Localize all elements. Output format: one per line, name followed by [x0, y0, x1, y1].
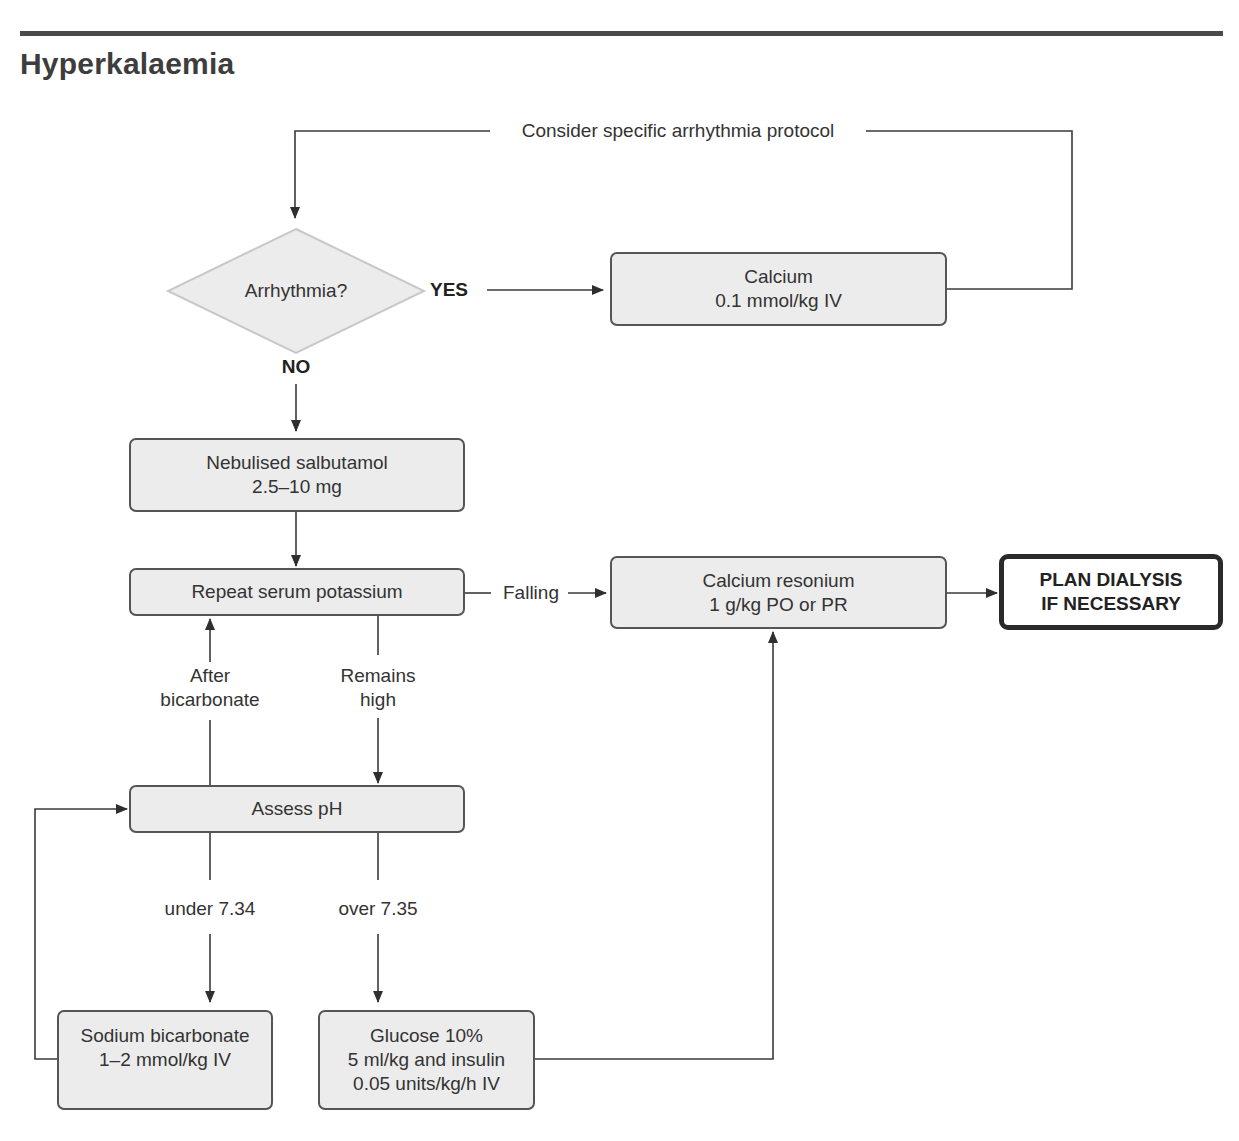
node-calcium-resonium-line2: 1 g/kg PO or PR	[709, 593, 847, 617]
node-sodium-bicarbonate-line1: Sodium bicarbonate	[81, 1024, 250, 1048]
node-repeat-potassium: Repeat serum potassium	[129, 568, 465, 616]
node-sodium-bicarbonate-line2: 1–2 mmol/kg IV	[99, 1048, 231, 1072]
node-glucose-insulin-line3: 0.05 units/kg/h IV	[353, 1072, 500, 1096]
node-glucose-insulin-line2: 5 ml/kg and insulin	[348, 1048, 505, 1072]
edge-label-under: under 7.34	[150, 897, 270, 921]
edge-glucose-to-resonium	[534, 632, 773, 1059]
node-calcium-line1: Calcium	[744, 265, 813, 289]
node-repeat-potassium-line1: Repeat serum potassium	[191, 580, 402, 604]
node-calcium-resonium-line1: Calcium resonium	[702, 569, 854, 593]
edge-label-arrhythmia-protocol: Consider specific arrhythmia protocol	[497, 119, 859, 143]
node-assess-ph-line1: Assess pH	[252, 797, 343, 821]
edge-label-remains-high: Remains high	[328, 664, 428, 712]
node-glucose-insulin: Glucose 10% 5 ml/kg and insulin 0.05 uni…	[318, 1010, 535, 1110]
edge-label-no: NO	[276, 355, 316, 379]
node-plan-dialysis: PLAN DIALYSIS IF NECESSARY	[999, 554, 1223, 630]
node-calcium: Calcium 0.1 mmol/kg IV	[610, 252, 947, 326]
edge-label-after-bicarbonate-line2: bicarbonate	[145, 688, 275, 712]
node-salbutamol-line1: Nebulised salbutamol	[206, 451, 388, 475]
edge-label-over: over 7.35	[323, 897, 433, 921]
node-calcium-resonium: Calcium resonium 1 g/kg PO or PR	[610, 556, 947, 629]
node-calcium-line2: 0.1 mmol/kg IV	[715, 289, 842, 313]
node-glucose-insulin-line1: Glucose 10%	[370, 1024, 483, 1048]
node-salbutamol: Nebulised salbutamol 2.5–10 mg	[129, 438, 465, 512]
edge-label-remains-high-line2: high	[328, 688, 428, 712]
edge-label-after-bicarbonate-line1: After	[145, 664, 275, 688]
node-salbutamol-line2: 2.5–10 mg	[252, 475, 342, 499]
node-plan-dialysis-line1: PLAN DIALYSIS	[1040, 568, 1183, 592]
node-sodium-bicarbonate: Sodium bicarbonate 1–2 mmol/kg IV	[57, 1010, 273, 1110]
decision-arrhythmia-label: Arrhythmia?	[196, 280, 396, 302]
edge-label-yes: YES	[430, 278, 468, 302]
edge-label-remains-high-line1: Remains	[328, 664, 428, 688]
edge-label-after-bicarbonate: After bicarbonate	[145, 664, 275, 712]
node-plan-dialysis-line2: IF NECESSARY	[1041, 592, 1181, 616]
edge-protocol-to-decision	[295, 131, 490, 218]
edge-label-falling: Falling	[496, 581, 566, 605]
node-assess-ph: Assess pH	[129, 785, 465, 833]
